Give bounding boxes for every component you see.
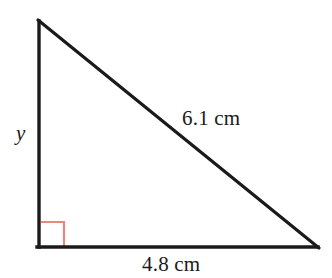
diagram-canvas: 6.1 cm 4.8 cm y <box>0 0 332 278</box>
base-length-label: 4.8 cm <box>142 254 200 275</box>
figure-background <box>0 0 332 278</box>
triangle-figure <box>0 0 332 278</box>
vertical-side-variable-label: y <box>16 123 25 144</box>
hypotenuse-length-label: 6.1 cm <box>182 108 240 129</box>
